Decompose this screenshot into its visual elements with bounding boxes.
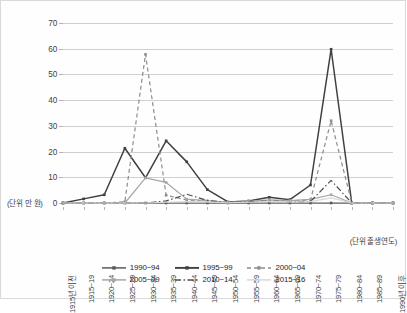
series-line	[63, 54, 393, 203]
legend-swatch-icon	[101, 275, 127, 284]
x-tick-mark	[393, 207, 394, 210]
data-point	[144, 177, 147, 180]
plot-area: 010203040506070	[63, 23, 393, 203]
x-tick-mark	[290, 207, 291, 210]
x-tick-mark	[146, 207, 147, 210]
x-tick-mark	[207, 207, 208, 210]
legend-item-1990~94[interactable]: 1990~94	[101, 263, 160, 272]
data-point	[268, 196, 271, 199]
legend-label: 2010~14	[203, 275, 233, 284]
x-tick-mark	[63, 207, 64, 210]
legend: 1990~941995~992000~04 2005~092010~142015…	[1, 263, 405, 284]
legend-row-1: 1990~941995~992000~04	[94, 263, 313, 272]
legend-label: 2005~09	[130, 275, 160, 284]
y-tick-label-20: 20	[29, 147, 57, 156]
series-2005~09	[62, 177, 395, 205]
x-tick-mark	[125, 207, 126, 210]
y-tick-label-50: 50	[29, 70, 57, 79]
data-point	[330, 119, 333, 122]
legend-swatch-icon	[246, 263, 272, 272]
legend-label: 2015~16	[275, 275, 305, 284]
legend-item-2005~09[interactable]: 2005~09	[101, 275, 160, 284]
data-point	[185, 198, 188, 201]
data-point	[82, 198, 85, 201]
x-axis-unit-label: (단위 출생연도)	[350, 235, 397, 246]
legend-swatch-icon	[174, 263, 200, 272]
data-point	[330, 48, 333, 51]
x-tick-mark	[249, 207, 250, 210]
series-line	[63, 49, 393, 203]
data-point	[165, 139, 168, 142]
legend-item-1995~99[interactable]: 1995~99	[174, 263, 233, 272]
x-tick-mark	[228, 207, 229, 210]
data-point	[309, 184, 312, 187]
y-tick-label-10: 10	[29, 173, 57, 182]
data-point	[103, 193, 106, 196]
data-point	[206, 188, 209, 191]
y-tick-label-40: 40	[29, 96, 57, 105]
data-point	[165, 181, 168, 184]
series-line	[63, 178, 393, 203]
series-2000~04	[62, 53, 395, 204]
x-tick-mark	[311, 207, 312, 210]
data-point	[330, 193, 333, 196]
legend-item-2000~04[interactable]: 2000~04	[246, 263, 305, 272]
legend-label: 1995~99	[203, 263, 233, 272]
y-axis-unit-label: (단위 만 원)	[7, 197, 43, 208]
legend-item-2010~14[interactable]: 2010~14	[174, 275, 233, 284]
legend-swatch-icon	[246, 275, 272, 284]
legend-label: 1990~94	[130, 263, 160, 272]
data-point	[165, 194, 168, 197]
x-tick-mark	[352, 207, 353, 210]
x-tick-mark	[104, 207, 105, 210]
x-tick-mark	[84, 207, 85, 210]
legend-label: 2000~04	[275, 263, 305, 272]
x-tick-mark	[269, 207, 270, 210]
data-point	[330, 202, 333, 205]
data-point	[124, 147, 127, 150]
x-tick-mark	[372, 207, 373, 210]
series-1995~99	[62, 48, 395, 204]
series-layer	[63, 23, 393, 203]
legend-swatch-icon	[101, 263, 127, 272]
x-tick-mark	[187, 207, 188, 210]
data-point	[144, 53, 147, 56]
y-tick-label-70: 70	[29, 19, 57, 28]
legend-item-2015~16[interactable]: 2015~16	[246, 275, 305, 284]
legend-swatch-icon	[174, 275, 200, 284]
x-tick-mark	[331, 207, 332, 210]
y-tick-label-60: 60	[29, 44, 57, 53]
y-tick-label-30: 30	[29, 121, 57, 130]
legend-row-2: 2005~092010~142015~16	[94, 275, 313, 284]
data-point	[185, 161, 188, 164]
x-tick-mark	[166, 207, 167, 210]
